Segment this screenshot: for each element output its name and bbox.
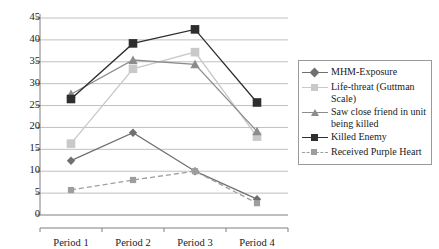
legend-marker-icon (302, 66, 328, 79)
plot-area: 454035302520151050 Period 1Period 2Perio… (0, 0, 300, 249)
legend-marker-icon (302, 106, 328, 119)
legend-item-label: Life-threat (Guttman Scale) (328, 81, 427, 104)
x-tick-label: Period 4 (226, 237, 288, 248)
x-tick-label: Period 2 (102, 237, 164, 248)
legend-item[interactable]: MHM-Exposure (302, 66, 427, 79)
legend-marker-icon (302, 81, 328, 94)
legend-item-label: Saw close friend in unit being killed (328, 106, 427, 129)
legend-item-label: MHM-Exposure (328, 66, 397, 78)
legend-item[interactable]: Received Purple Heart (302, 146, 427, 159)
line-chart: 454035302520151050 Period 1Period 2Perio… (0, 0, 439, 249)
legend-marker-icon (302, 131, 328, 144)
legend-item-label: Killed Enemy (328, 131, 387, 143)
legend-item[interactable]: Killed Enemy (302, 131, 427, 144)
x-axis-tick-labels: Period 1Period 2Period 3Period 4 (0, 0, 300, 249)
x-tick-label: Period 1 (40, 237, 102, 248)
legend-item[interactable]: Saw close friend in unit being killed (302, 106, 427, 129)
legend-item-label: Received Purple Heart (328, 146, 422, 158)
x-tick-label: Period 3 (164, 237, 226, 248)
legend-marker-icon (302, 146, 328, 159)
legend-item[interactable]: Life-threat (Guttman Scale) (302, 81, 427, 104)
chart-legend: MHM-ExposureLife-threat (Guttman Scale)S… (298, 60, 432, 165)
